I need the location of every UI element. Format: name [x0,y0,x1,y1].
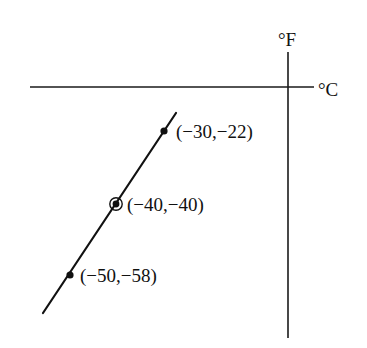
point-dot-minus50 [66,271,73,278]
point-label-minus50: (−50,−58) [80,265,157,287]
point-dot-minus30 [160,127,167,134]
point-label-minus40: (−40,−40) [127,194,204,216]
point-label-minus30: (−30,−22) [176,121,253,143]
fahrenheit-axis-label: °F [278,29,296,50]
point-dot-minus40 [113,201,120,208]
celsius-axis-label: °C [318,79,338,100]
diagram-canvas: °F °C (−30,−22) (−40,−40) (−50,−58) [0,0,367,348]
